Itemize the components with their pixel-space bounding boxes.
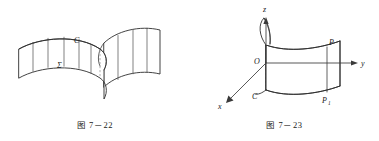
figure-7-23-caption: 图 7－23 [190,118,379,130]
surface-label-sigma: Σ [56,61,62,70]
figure-7-22-caption: 图 7－22 [0,118,190,130]
figure-7-22-drawing: C Σ [0,0,190,120]
surface-right-lobe [104,28,160,87]
surface-left-lobe [19,37,106,99]
figure-7-23: O z y x P P 1 C 图 7－23 [190,0,379,141]
point-label-P: P [328,38,334,47]
axis-label-y: y [360,59,365,68]
figure-7-22: C Σ 图 7－22 [0,0,190,141]
point-label-P1-subscript: 1 [328,100,331,106]
point-label-P1: P [321,96,327,105]
axis-y-arrowhead [351,60,358,65]
origin-label: O [254,57,260,66]
figure-7-23-drawing: O z y x P P 1 C [190,0,379,120]
axis-label-x: x [217,102,222,111]
curve-label-C: C [74,36,80,45]
cylindrical-surface [266,41,340,94]
curve-label-C: C [252,92,258,101]
axis-label-z: z [262,5,267,14]
figure-sheet: C Σ 图 7－22 [0,0,379,141]
